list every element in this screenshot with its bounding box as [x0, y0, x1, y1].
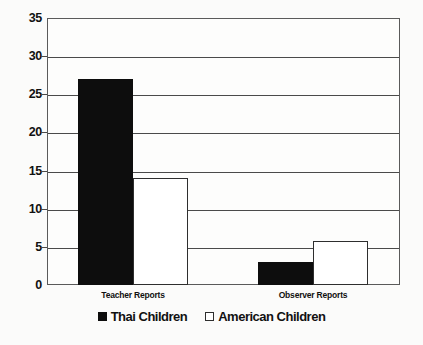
chart-legend: Thai ChildrenAmerican Children: [0, 309, 423, 324]
legend-swatch-icon: [205, 312, 214, 321]
y-axis-tick-label: 35: [8, 11, 42, 25]
legend-item-american-children: American Children: [205, 309, 325, 324]
legend-label: American Children: [218, 309, 325, 324]
bar-american-children-observer-reports: [313, 241, 368, 285]
y-axis-tick-label: 15: [8, 164, 42, 178]
y-axis-tick-label: 5: [8, 240, 42, 254]
bar-chart: 05101520253035 Teacher ReportsObserver R…: [0, 0, 423, 345]
bar-thai-children-teacher-reports: [78, 79, 133, 285]
y-axis-tick-label: 0: [8, 278, 42, 292]
legend-label: Thai Children: [111, 309, 188, 324]
y-axis-tick-label: 30: [8, 49, 42, 63]
bar-american-children-teacher-reports: [133, 178, 188, 285]
bars-group: [47, 18, 400, 285]
y-axis-tick-label: 10: [8, 202, 42, 216]
legend-swatch-icon: [98, 312, 107, 321]
category-label-teacher-reports: Teacher Reports: [101, 290, 164, 300]
category-label-observer-reports: Observer Reports: [279, 290, 348, 300]
y-axis-tick-label: 25: [8, 87, 42, 101]
y-axis-tick-label: 20: [8, 125, 42, 139]
legend-item-thai-children: Thai Children: [98, 309, 188, 324]
bar-thai-children-observer-reports: [258, 262, 313, 285]
